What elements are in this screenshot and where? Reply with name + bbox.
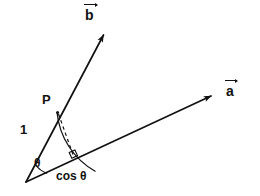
vector-projection-diagram: b a P 1 θ cos θ [0,0,260,196]
vector-a-letter: a [226,83,234,99]
unit-radius-arc [57,112,96,172]
vector-b-letter: b [85,7,94,23]
vector-b-label: b [85,8,94,22]
point-p-marker [56,111,59,114]
point-p-label: P [42,93,51,106]
vector-a-line [26,96,211,182]
vector-a-label: a [226,84,234,98]
unit-length-label: 1 [20,123,27,136]
angle-theta-label: θ [34,157,41,169]
overarrow-a-icon [225,80,237,81]
overarrow-b-icon [84,4,97,5]
projection-length-label: cos θ [56,170,87,182]
